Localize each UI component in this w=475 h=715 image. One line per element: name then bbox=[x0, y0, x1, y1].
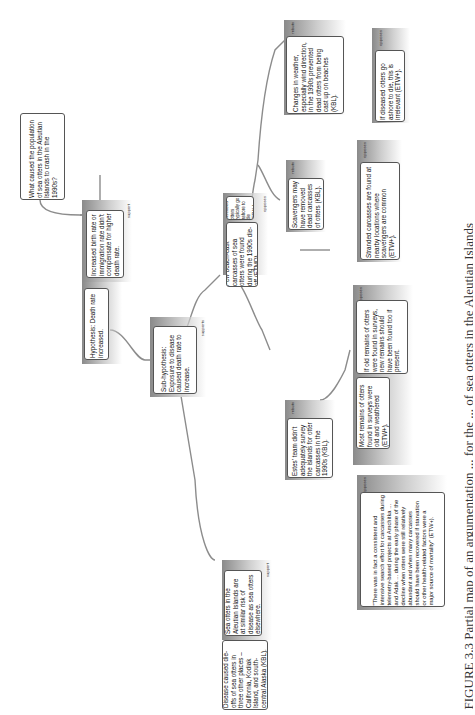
quote-text: "There was in fact a consistent and inte… bbox=[371, 494, 434, 605]
sub-hypothesis-tag: supports bbox=[200, 320, 205, 336]
birth-rate-text: Increased birth rate or immigration rate… bbox=[90, 212, 120, 276]
few-carcasses-tag: opposes bbox=[262, 196, 267, 212]
hypothesis-text: Hypothesis: Death rate increased. bbox=[89, 290, 104, 358]
sub-hypothesis-node[interactable]: Sub-hypothesis: Exposure to disease caus… bbox=[153, 326, 197, 394]
scavengers-tag: rebuts bbox=[290, 162, 295, 174]
figure-caption: FIGURE 3.3 Partial map of an argumentati… bbox=[459, 0, 473, 715]
similar-risk-tag: support bbox=[265, 563, 270, 577]
irrelevant-text: If diseased otters go ashore to die, thi… bbox=[379, 52, 402, 120]
stranded-node[interactable]: Stranded carcasses are found at nearby l… bbox=[360, 162, 400, 260]
quote-node[interactable]: "There was in fact a consistent and inte… bbox=[360, 492, 445, 607]
root-question-node[interactable]: What caused the population of sea otters… bbox=[20, 113, 65, 200]
sub-hypothesis-text: Sub-hypothesis: Exposure to disease caus… bbox=[160, 328, 190, 392]
old-remains-text: Most remains of otters found in surveys … bbox=[358, 379, 388, 447]
irrelevant-node[interactable]: If diseased otters go ashore to die, thi… bbox=[375, 50, 405, 122]
weather-text: Changes in weather, especially wind dire… bbox=[292, 38, 338, 112]
new-remains-text: If old remains of otters were found in s… bbox=[363, 302, 401, 372]
few-carcasses-text: Few beach-cast carcasses of sea otters w… bbox=[226, 224, 258, 286]
birth-rate-node[interactable]: Increased birth rate or immigration rate… bbox=[86, 210, 124, 278]
weather-tag: rebuts bbox=[290, 22, 295, 34]
scavengers-node[interactable]: Scavengers may have removed dead carcass… bbox=[288, 178, 324, 230]
root-question-text: What caused the population of sea otters… bbox=[27, 116, 57, 198]
estes-node[interactable]: Estes' team didn't adequately survey the… bbox=[287, 418, 333, 478]
irrelevant-tag: opposes bbox=[378, 30, 383, 46]
stranded-tag: opposes bbox=[362, 142, 367, 158]
birth-rate-tag: support bbox=[126, 204, 131, 218]
estes-tag: rebuts bbox=[290, 402, 295, 414]
old-remains-node[interactable]: Most remains of otters found in surveys … bbox=[356, 377, 390, 449]
similar-risk-text: Sea otters in the Aleutian Islands are a… bbox=[224, 572, 262, 634]
dieoffs-text: Disease caused die-offs of sea otters in… bbox=[222, 642, 268, 708]
go-ashore-text: Diseased otters typically go ashore to d… bbox=[226, 196, 254, 220]
figure-caption-text: FIGURE 3.3 Partial map of an argumentati… bbox=[461, 223, 473, 709]
hypothesis-node[interactable]: Hypothesis: Death rate increased. bbox=[84, 288, 109, 360]
weather-node[interactable]: Changes in weather, especially wind dire… bbox=[286, 36, 344, 114]
estes-text: Estes' team didn't adequately survey the… bbox=[291, 420, 329, 476]
dieoffs-node[interactable]: Disease caused die-offs of sea otters in… bbox=[222, 640, 268, 710]
new-remains-node[interactable]: If old remains of otters were found in s… bbox=[356, 300, 408, 374]
scavengers-text: Scavengers may have removed dead carcass… bbox=[291, 180, 321, 228]
stranded-text: Stranded carcasses are found at nearby l… bbox=[365, 164, 395, 258]
similar-risk-node[interactable]: Sea otters in the Aleutian Islands are a… bbox=[224, 570, 262, 636]
go-ashore-node[interactable]: Diseased otters typically go ashore to d… bbox=[226, 196, 254, 220]
few-carcasses-node[interactable]: Few beach-cast carcasses of sea otters w… bbox=[226, 222, 258, 287]
quote-tag: opposes bbox=[362, 477, 367, 493]
